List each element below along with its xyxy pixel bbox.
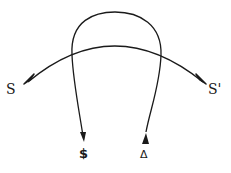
arc-s-to-s-prime bbox=[28, 46, 203, 82]
label-dollar: $ bbox=[79, 147, 88, 160]
arch-dollar-delta bbox=[72, 12, 161, 136]
label-s-prime: S' bbox=[208, 82, 221, 96]
arrowhead-delta-icon bbox=[142, 133, 149, 144]
label-delta: Δ bbox=[140, 149, 148, 160]
diagram-canvas bbox=[0, 0, 231, 173]
label-s: S bbox=[6, 82, 16, 96]
arrowhead-dollar-icon bbox=[80, 132, 86, 142]
arrowhead-s-prime-icon bbox=[196, 74, 206, 84]
